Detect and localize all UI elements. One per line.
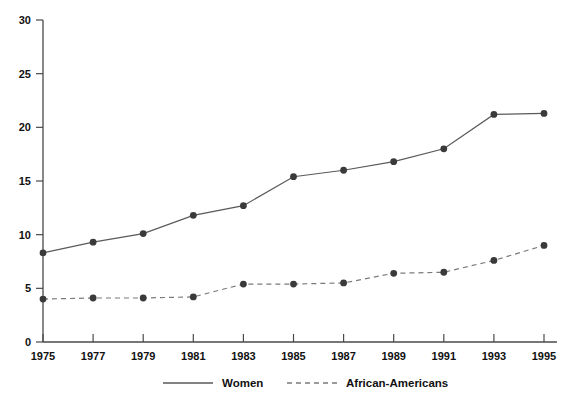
- data-point: [290, 173, 297, 180]
- data-point: [90, 239, 97, 246]
- data-point: [190, 212, 197, 219]
- y-tick-label: 20: [19, 121, 31, 133]
- y-tick-label: 30: [19, 14, 31, 26]
- data-point: [541, 110, 548, 117]
- data-point: [340, 167, 347, 174]
- y-tick-label: 0: [25, 336, 31, 348]
- data-point: [140, 230, 147, 237]
- x-tick-group: 1975197719791981198319851987198919911993…: [31, 334, 556, 362]
- series-layer: [40, 110, 548, 302]
- x-tick-label: 1995: [532, 350, 556, 362]
- axis-lines: [43, 20, 557, 342]
- x-tick-label: 1989: [381, 350, 405, 362]
- data-point: [290, 281, 297, 288]
- data-point: [440, 145, 447, 152]
- x-tick-label: 1993: [482, 350, 506, 362]
- x-tick-label: 1975: [31, 350, 55, 362]
- x-tick-label: 1991: [432, 350, 456, 362]
- data-point: [491, 111, 498, 118]
- data-point: [40, 250, 47, 257]
- data-point: [491, 257, 498, 264]
- x-tick-label: 1979: [131, 350, 155, 362]
- y-tick-label: 15: [19, 175, 31, 187]
- data-point: [440, 269, 447, 276]
- legend-label-women: Women: [222, 377, 263, 389]
- chart-canvas: 051015202530 197519771979198119831985198…: [0, 0, 563, 395]
- chart-legend: Women African-Americans: [163, 377, 448, 389]
- data-point: [340, 280, 347, 287]
- data-point: [140, 295, 147, 302]
- series-line-women: [43, 113, 544, 253]
- y-tick-label: 25: [19, 68, 31, 80]
- line-chart: 051015202530 197519771979198119831985198…: [0, 0, 563, 395]
- x-tick-label: 1985: [281, 350, 305, 362]
- data-point: [190, 294, 197, 301]
- x-tick-label: 1977: [81, 350, 105, 362]
- data-point: [240, 202, 247, 209]
- y-tick-label: 5: [25, 282, 31, 294]
- x-tick-label: 1981: [181, 350, 205, 362]
- data-point: [90, 295, 97, 302]
- y-tick-label: 10: [19, 229, 31, 241]
- data-point: [40, 296, 47, 303]
- data-point: [390, 270, 397, 277]
- data-point: [541, 242, 548, 249]
- y-tick-group: 051015202530: [19, 14, 43, 348]
- data-point: [390, 158, 397, 165]
- x-tick-label: 1987: [331, 350, 355, 362]
- series-line-african-americans: [43, 245, 544, 299]
- legend-label-african-americans: African-Americans: [346, 377, 448, 389]
- x-tick-label: 1983: [231, 350, 255, 362]
- data-point: [240, 281, 247, 288]
